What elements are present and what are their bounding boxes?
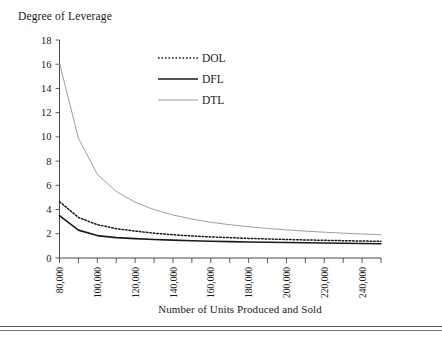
legend-label-dtl: DTL (202, 94, 224, 106)
series-line-dol (60, 202, 382, 242)
x-tick-label: 160,000 (206, 267, 216, 298)
x-tick-label: 120,000 (131, 267, 141, 298)
chart-plot-area: 024681012141618 80,000100,000120,000140,… (0, 0, 442, 342)
x-tick-label: 220,000 (320, 267, 330, 298)
y-tick-label: 12 (41, 107, 52, 118)
y-tick-label: 16 (41, 59, 52, 70)
footer-divider-bottom (0, 330, 442, 331)
data-series-group (60, 63, 382, 244)
y-tick-label: 8 (46, 156, 51, 167)
y-tick-label: 18 (41, 35, 52, 46)
x-tick-label: 240,000 (358, 267, 368, 298)
footer-divider-top (0, 326, 442, 327)
y-tick-label: 2 (46, 228, 51, 239)
x-tick-label: 140,000 (169, 267, 179, 298)
x-axis-title-label: Number of Units Produced and Sold (120, 303, 322, 315)
y-tick-label: 4 (46, 204, 52, 215)
chart-figure: Degree of Leverage 024681012141618 80,00… (0, 0, 442, 342)
y-tick-label: 6 (46, 180, 51, 191)
x-axis: 80,000100,000120,000140,000160,000180,00… (55, 258, 381, 298)
x-tick-label: 180,000 (244, 267, 254, 298)
y-axis: 024681012141618 (41, 35, 60, 264)
y-tick-label: 10 (41, 131, 52, 142)
y-tick-label: 0 (46, 253, 51, 264)
series-line-dtl (60, 63, 382, 235)
legend-label-dol: DOL (202, 52, 226, 64)
series-line-dfl (60, 216, 382, 244)
y-tick-label: 14 (41, 83, 52, 94)
x-axis-title: Number of Units Produced and Sold (0, 303, 442, 315)
x-tick-label: 200,000 (282, 267, 292, 298)
x-tick-label: 80,000 (55, 267, 65, 293)
chart-legend: DOLDFLDTL (158, 52, 226, 106)
x-tick-label: 100,000 (93, 267, 103, 298)
legend-label-dfl: DFL (202, 73, 224, 85)
